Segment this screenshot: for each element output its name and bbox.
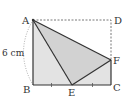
geometry-diagram: A D B C E F 6 cm: [0, 0, 131, 98]
label-f: F: [113, 55, 120, 66]
label-e: E: [68, 87, 75, 98]
measurement-label: 6 cm: [2, 48, 25, 58]
point-a-dot: [32, 19, 34, 21]
label-a: A: [21, 15, 30, 26]
measurement-arc: [24, 20, 34, 85]
label-c: C: [113, 82, 121, 93]
label-d: D: [114, 15, 122, 26]
label-b: B: [23, 84, 30, 95]
